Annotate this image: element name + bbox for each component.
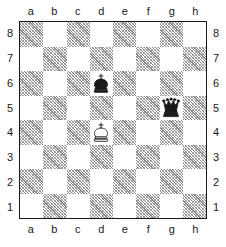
rank-label-8-left: 8 (2, 21, 18, 46)
square-e3[interactable] (113, 145, 136, 170)
square-f2[interactable] (136, 169, 159, 194)
square-b2[interactable] (43, 169, 66, 194)
square-g6[interactable] (160, 71, 183, 96)
square-a4[interactable] (20, 120, 43, 145)
rank-label-2-left: 2 (2, 170, 18, 195)
file-label-a-bottom: a (19, 222, 43, 237)
square-b6[interactable] (43, 71, 66, 96)
square-c7[interactable] (67, 47, 90, 72)
square-b4[interactable] (43, 120, 66, 145)
square-d6[interactable] (90, 71, 113, 96)
file-label-h-bottom: h (184, 222, 208, 237)
rank-label-5-left: 5 (2, 95, 18, 120)
square-a7[interactable] (20, 47, 43, 72)
file-label-h-top: h (184, 4, 208, 19)
file-label-c-top: c (66, 4, 90, 19)
square-e4[interactable] (113, 120, 136, 145)
square-c2[interactable] (67, 169, 90, 194)
rank-label-7-left: 7 (2, 46, 18, 71)
rank-label-6-right: 6 (208, 71, 224, 96)
square-c3[interactable] (67, 145, 90, 170)
black-king-d6[interactable] (91, 73, 111, 94)
square-a1[interactable] (20, 194, 43, 219)
square-e7[interactable] (113, 47, 136, 72)
square-e6[interactable] (113, 71, 136, 96)
square-c1[interactable] (67, 194, 90, 219)
file-label-e-bottom: e (113, 222, 137, 237)
square-g4[interactable] (160, 120, 183, 145)
square-d5[interactable] (90, 96, 113, 121)
file-label-c-bottom: c (66, 222, 90, 237)
square-h4[interactable] (183, 120, 206, 145)
chess-board (19, 21, 207, 219)
square-a5[interactable] (20, 96, 43, 121)
square-b8[interactable] (43, 22, 66, 47)
square-g5[interactable] (160, 96, 183, 121)
square-b7[interactable] (43, 47, 66, 72)
rank-label-6-left: 6 (2, 71, 18, 96)
file-label-g-top: g (160, 4, 184, 19)
rank-label-3-left: 3 (2, 145, 18, 170)
square-b3[interactable] (43, 145, 66, 170)
square-d4[interactable] (90, 120, 113, 145)
rank-label-4-right: 4 (208, 120, 224, 145)
square-f5[interactable] (136, 96, 159, 121)
square-c6[interactable] (67, 71, 90, 96)
square-h6[interactable] (183, 71, 206, 96)
board-grid (20, 22, 206, 218)
square-h7[interactable] (183, 47, 206, 72)
file-label-b-bottom: b (43, 222, 67, 237)
square-e2[interactable] (113, 169, 136, 194)
rank-label-7-right: 7 (208, 46, 224, 71)
square-h3[interactable] (183, 145, 206, 170)
square-b5[interactable] (43, 96, 66, 121)
rank-label-1-right: 1 (208, 194, 224, 219)
square-e5[interactable] (113, 96, 136, 121)
square-c4[interactable] (67, 120, 90, 145)
file-label-d-bottom: d (90, 222, 114, 237)
square-d1[interactable] (90, 194, 113, 219)
square-f6[interactable] (136, 71, 159, 96)
square-d7[interactable] (90, 47, 113, 72)
square-g1[interactable] (160, 194, 183, 219)
square-d3[interactable] (90, 145, 113, 170)
square-g2[interactable] (160, 169, 183, 194)
rank-label-1-left: 1 (2, 194, 18, 219)
square-a2[interactable] (20, 169, 43, 194)
square-h8[interactable] (183, 22, 206, 47)
square-c5[interactable] (67, 96, 90, 121)
square-g8[interactable] (160, 22, 183, 47)
square-d2[interactable] (90, 169, 113, 194)
square-h2[interactable] (183, 169, 206, 194)
square-g3[interactable] (160, 145, 183, 170)
file-label-f-bottom: f (137, 222, 161, 237)
file-label-b-top: b (43, 4, 67, 19)
square-f8[interactable] (136, 22, 159, 47)
square-b1[interactable] (43, 194, 66, 219)
black-queen-g5[interactable] (161, 97, 181, 118)
square-e8[interactable] (113, 22, 136, 47)
chess-diagram: a b c d e f g h 8 7 6 5 4 3 2 1 8 7 6 5 … (0, 0, 226, 247)
square-f3[interactable] (136, 145, 159, 170)
square-a6[interactable] (20, 71, 43, 96)
square-a3[interactable] (20, 145, 43, 170)
square-f1[interactable] (136, 194, 159, 219)
square-c8[interactable] (67, 22, 90, 47)
square-g7[interactable] (160, 47, 183, 72)
rank-labels-left: 8 7 6 5 4 3 2 1 (2, 21, 18, 219)
rank-label-2-right: 2 (208, 170, 224, 195)
file-label-f-top: f (137, 4, 161, 19)
square-e1[interactable] (113, 194, 136, 219)
rank-label-8-right: 8 (208, 21, 224, 46)
square-h1[interactable] (183, 194, 206, 219)
rank-label-4-left: 4 (2, 120, 18, 145)
white-king-d4[interactable] (91, 122, 111, 143)
square-h5[interactable] (183, 96, 206, 121)
rank-labels-right: 8 7 6 5 4 3 2 1 (208, 21, 224, 219)
square-a8[interactable] (20, 22, 43, 47)
square-d8[interactable] (90, 22, 113, 47)
square-f4[interactable] (136, 120, 159, 145)
file-label-d-top: d (90, 4, 114, 19)
square-f7[interactable] (136, 47, 159, 72)
rank-label-5-right: 5 (208, 95, 224, 120)
